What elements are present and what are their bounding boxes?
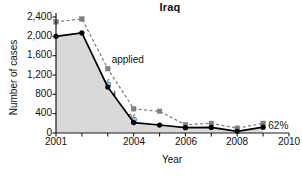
granted-area — [56, 33, 263, 133]
chart-canvas — [0, 0, 302, 178]
chart-figure: Iraq 2,400 2,000 1,600 1,200 800 400 0 2… — [0, 0, 302, 178]
